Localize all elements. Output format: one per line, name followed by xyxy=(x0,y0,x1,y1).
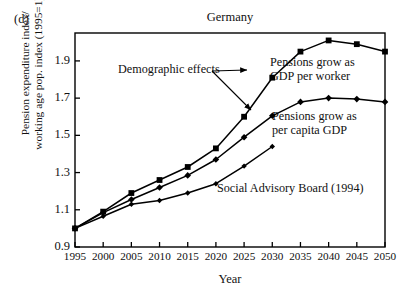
series-marker-0 xyxy=(213,145,219,151)
series-marker-0 xyxy=(185,164,191,170)
series-marker-1 xyxy=(297,99,304,106)
series-marker-0 xyxy=(241,114,247,120)
series-marker-2 xyxy=(157,198,162,203)
series-marker-0 xyxy=(382,49,388,55)
series-marker-0 xyxy=(269,75,275,81)
plot-area xyxy=(0,0,402,298)
annotation-arrow xyxy=(212,71,251,110)
plot-frame xyxy=(75,33,385,247)
series-marker-1 xyxy=(325,95,332,102)
series-marker-0 xyxy=(354,41,360,47)
series-marker-1 xyxy=(354,96,361,103)
series-marker-1 xyxy=(184,172,191,179)
annotation-arrow xyxy=(212,70,247,71)
series-line-0 xyxy=(75,40,385,228)
series-marker-2 xyxy=(129,202,134,207)
series-marker-0 xyxy=(157,177,163,183)
series-marker-0 xyxy=(326,38,332,44)
series-marker-1 xyxy=(156,184,163,191)
series-marker-0 xyxy=(128,190,134,196)
series-marker-0 xyxy=(298,49,304,55)
series-marker-2 xyxy=(185,190,190,195)
series-marker-1 xyxy=(382,99,389,106)
figure-panel: (d) Germany Pension expenditure index/ w… xyxy=(0,0,402,298)
